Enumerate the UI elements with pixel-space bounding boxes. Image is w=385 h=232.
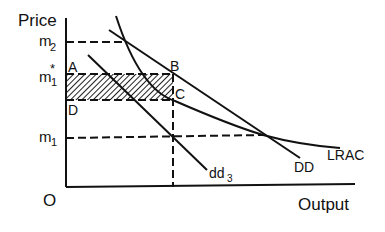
point-C-label: C: [175, 86, 185, 102]
svg-text:1: 1: [51, 76, 57, 88]
y-axis-label: Price: [18, 11, 57, 30]
dd3-curve: [88, 55, 207, 170]
LRAC-curve: [116, 16, 340, 148]
point-A-label: A: [68, 59, 78, 75]
DD-label: DD: [294, 159, 314, 175]
m1-label: m 1: [39, 128, 57, 148]
point-B-label: B: [170, 58, 179, 74]
m1-dashed-line: [66, 135, 263, 138]
svg-text:2: 2: [50, 41, 56, 53]
svg-text:3: 3: [227, 173, 233, 184]
svg-text:*: *: [50, 61, 55, 76]
m1-star-label: m 1 *: [39, 61, 57, 88]
shaded-profit-area: [66, 74, 173, 100]
x-axis: [66, 184, 355, 187]
origin-label: O: [43, 191, 56, 210]
x-axis-label: Output: [298, 195, 349, 214]
diagram-canvas: Price Output O m 2 m 1 * m 1 A B C D dd …: [0, 0, 385, 232]
m2-label: m 2: [39, 32, 56, 53]
svg-text:1: 1: [51, 136, 57, 148]
dd3-label: dd 3: [209, 165, 233, 184]
point-D-label: D: [68, 102, 78, 118]
LRAC-label: LRAC: [327, 147, 364, 163]
svg-text:m: m: [39, 128, 52, 145]
svg-text:dd: dd: [209, 165, 225, 181]
